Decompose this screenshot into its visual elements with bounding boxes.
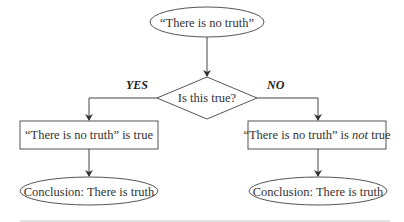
yes-statement-label: “There is no truth” is true	[25, 128, 154, 142]
yes-conclusion-node: Conclusion: There is truth	[20, 177, 158, 205]
no-statement-emphasis: not	[352, 128, 369, 142]
no-statement-prefix: “There is no truth” is	[243, 128, 352, 142]
no-statement-suffix: true	[368, 128, 391, 142]
start-label: “There is no truth”	[160, 16, 254, 30]
yes-statement-node: “There is no truth” is true	[20, 121, 158, 149]
edge-decision-to-yes	[89, 98, 157, 120]
no-statement-node: “There is no truth” is not true	[243, 121, 391, 149]
no-conclusion-label: Conclusion: There is truth	[253, 185, 384, 199]
decision-label: Is this true?	[178, 91, 237, 105]
no-conclusion-node: Conclusion: There is truth	[249, 177, 387, 205]
decision-node: Is this true?	[157, 77, 257, 119]
start-node: “There is no truth”	[150, 7, 264, 37]
no-edge-label: NO	[266, 78, 285, 92]
yes-conclusion-label: Conclusion: There is truth	[24, 185, 155, 199]
yes-statement-text: “There is no truth” is true	[25, 128, 154, 142]
no-statement-label: “There is no truth” is not true	[243, 128, 391, 142]
edge-decision-to-no	[257, 98, 318, 120]
yes-edge-label: YES	[126, 78, 148, 92]
flowchart: “There is no truth” Is this true? YES NO…	[0, 0, 404, 222]
